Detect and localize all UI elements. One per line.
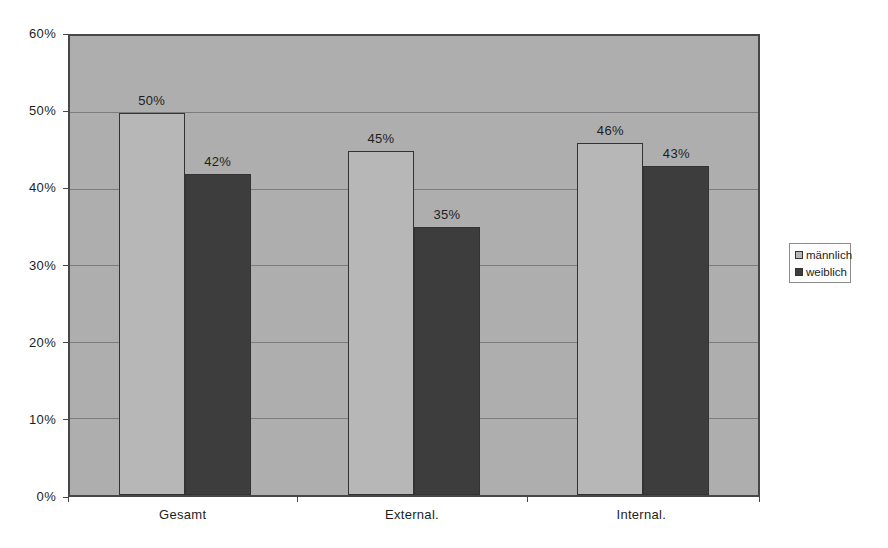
x-axis-tick: [68, 497, 69, 502]
y-axis-label: 40%: [0, 180, 56, 195]
legend-label-maennlich: männlich: [806, 249, 852, 261]
y-axis-label: 20%: [0, 335, 56, 350]
y-axis-label: 60%: [0, 26, 56, 41]
x-axis-tick: [759, 497, 760, 502]
y-axis-label: 30%: [0, 258, 56, 273]
bar-chart-figure: 50%42%45%35%46%43% männlich weiblich 0%1…: [0, 0, 888, 548]
bar-männlich-internal: [577, 143, 643, 495]
y-axis-tick: [63, 342, 68, 343]
x-axis-label: Gesamt: [68, 507, 297, 522]
bar-value-label: 46%: [567, 123, 653, 138]
y-axis-tick: [63, 188, 68, 189]
bar-value-label: 50%: [109, 93, 195, 108]
y-axis-label: 50%: [0, 103, 56, 118]
x-axis-tick: [297, 497, 298, 502]
y-axis-label: 0%: [0, 489, 56, 504]
legend: männlich weiblich: [789, 243, 851, 283]
y-axis-tick: [63, 419, 68, 420]
legend-entry-maennlich: männlich: [795, 249, 846, 261]
bar-weiblich-external: [414, 227, 480, 495]
y-axis-tick: [63, 34, 68, 35]
legend-entry-weiblich: weiblich: [795, 266, 846, 278]
bar-value-label: 43%: [633, 146, 719, 161]
plot-area: 50%42%45%35%46%43%: [68, 34, 760, 497]
bar-männlich-gesamt: [119, 113, 185, 496]
x-axis-tick: [527, 497, 528, 502]
bar-value-label: 42%: [175, 154, 261, 169]
y-axis-tick: [63, 265, 68, 266]
x-axis-label: External.: [297, 507, 526, 522]
bar-weiblich-gesamt: [185, 174, 251, 495]
x-axis-label: Internal.: [527, 507, 756, 522]
y-axis-label: 10%: [0, 412, 56, 427]
bar-value-label: 35%: [404, 207, 490, 222]
legend-label-weiblich: weiblich: [806, 266, 847, 278]
bar-männlich-external: [348, 151, 414, 495]
legend-swatch-maennlich-icon: [795, 251, 803, 259]
legend-swatch-weiblich-icon: [795, 268, 803, 276]
y-axis-tick: [63, 111, 68, 112]
bar-weiblich-internal: [643, 166, 709, 495]
bar-value-label: 45%: [338, 131, 424, 146]
